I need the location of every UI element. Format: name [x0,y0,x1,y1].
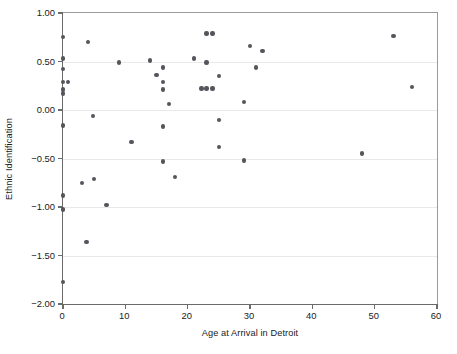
y-axis-tick [58,255,63,256]
y-axis-tick-label: −2.00 [15,298,55,309]
scatter-point [61,123,65,127]
scatter-point [260,49,264,53]
y-axis-tick-label: −0.50 [15,152,55,163]
scatter-point [154,73,158,77]
y-axis-tick-label: 0.00 [15,104,55,115]
scatter-point [161,159,165,163]
y-axis-tick [58,109,63,110]
scatter-point [248,44,252,48]
scatter-point [167,102,171,106]
x-axis-tick [249,304,250,309]
scatter-point [161,87,165,91]
scatter-point [92,177,96,181]
scatter-point [391,34,395,38]
y-axis-tick [58,61,63,62]
scatter-point [254,65,258,69]
x-axis-tick-label: 30 [244,310,254,321]
y-axis-tick-label: 1.00 [15,7,55,18]
gridline-horizontal [63,110,437,111]
y-axis-tick-label: −1.00 [15,201,55,212]
x-axis-tick-label: 20 [181,310,191,321]
scatter-point [360,151,364,155]
scatter-point [217,118,221,122]
scatter-point [192,56,196,60]
scatter-point [117,60,121,64]
x-axis-tick-label: 10 [119,310,129,321]
scatter-point [80,181,84,185]
scatter-plot-figure: Ethnic Identification Age at Arrival in … [0,0,457,354]
scatter-point [210,86,214,90]
scatter-point [217,145,221,149]
scatter-point [204,60,208,64]
gridline-horizontal [63,207,437,208]
scatter-point [104,203,108,207]
x-axis-tick [125,304,126,309]
x-axis-tick-label: 60 [431,310,441,321]
scatter-point [61,35,65,39]
scatter-point [161,80,165,84]
scatter-point [61,208,65,212]
x-axis-tick [374,304,375,309]
scatter-point [161,124,165,128]
scatter-point [86,40,90,44]
scatter-point [66,80,70,84]
scatter-point [91,114,95,118]
scatter-point [129,140,133,144]
x-axis-tick-label: 50 [368,310,378,321]
scatter-point [204,86,208,90]
x-axis-tick [312,304,313,309]
scatter-point [173,175,177,179]
scatter-point [61,56,65,60]
scatter-point [84,240,88,244]
y-axis-tick [58,12,63,13]
scatter-point [61,91,65,95]
x-axis-tick [187,304,188,309]
y-axis-tick-label: −1.50 [15,249,55,260]
scatter-point [242,158,246,162]
scatter-point [61,280,65,284]
gridline-horizontal [63,159,437,160]
scatter-point [161,65,165,69]
x-axis-tick-label: 40 [306,310,316,321]
scatter-point [410,85,414,89]
y-axis-tick [58,158,63,159]
gridline-horizontal [63,256,437,257]
plot-area [62,12,438,305]
scatter-point [217,74,221,78]
y-axis-tick-label: 0.50 [15,55,55,66]
scatter-point [210,31,214,35]
scatter-point [61,193,65,197]
x-axis-tick [436,304,437,309]
scatter-point [204,31,208,35]
scatter-point [61,80,65,84]
scatter-point [242,100,246,104]
scatter-point [61,67,65,71]
x-axis-tick [62,304,63,309]
x-axis-tick-label: 0 [59,310,64,321]
x-axis-title: Age at Arrival in Detroit [62,328,438,338]
scatter-point [199,86,203,90]
